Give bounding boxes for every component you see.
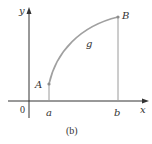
point-b-label: B: [121, 10, 129, 21]
y-axis-arrow-icon: [27, 7, 32, 14]
y-axis-label: y: [18, 5, 25, 16]
tick-label-b: b: [114, 107, 120, 118]
x-axis-arrow-icon: [142, 99, 149, 104]
curve-label: g: [86, 38, 92, 49]
graph-diagram: y 0 a b x A B g (b): [0, 0, 152, 144]
point-b-marker: [116, 15, 119, 18]
figure-caption: (b): [66, 125, 78, 137]
tick-label-a: a: [46, 107, 52, 118]
origin-label: 0: [20, 104, 25, 115]
point-a-label: A: [34, 79, 42, 90]
x-axis-label: x: [140, 104, 146, 115]
curve-g: [49, 17, 118, 84]
point-a-marker: [47, 82, 50, 85]
